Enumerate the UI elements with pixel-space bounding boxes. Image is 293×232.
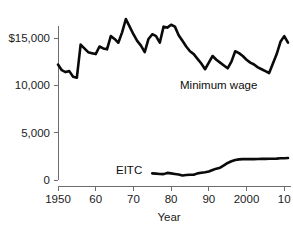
x-tick-label: 80 [165,193,178,205]
x-axis-ticks: 195060708090200010 [45,186,290,205]
series-label: Minimum wage [180,79,257,91]
x-tick-label: 70 [127,193,140,205]
y-tick-label: $15,000 [8,32,50,44]
series-line-eitc [152,158,288,176]
y-tick-label: 5,000 [21,127,50,139]
x-tick-label: 10 [278,193,291,205]
line-chart: 05,00010,000$15,000 195060708090200010 M… [0,0,293,232]
series-annotations: Minimum wageEITC [116,79,257,176]
series-line-minimum-wage [58,19,288,78]
x-axis-title: Year [157,211,180,223]
y-axis-ticks: 05,00010,000$15,000 [8,32,58,186]
y-tick-label: 10,000 [15,79,50,91]
series-label: EITC [116,164,142,176]
x-tick-label: 60 [89,193,102,205]
x-tick-label: 2000 [234,193,260,205]
chart-container: 05,00010,000$15,000 195060708090200010 M… [0,0,293,232]
x-tick-label: 1950 [45,193,71,205]
series-lines [58,19,288,175]
x-tick-label: 90 [202,193,215,205]
axes-group [58,26,291,186]
y-tick-label: 0 [44,174,50,186]
